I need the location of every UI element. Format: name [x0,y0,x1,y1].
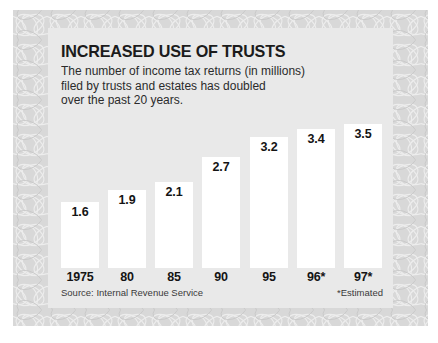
bar-column-90: 2.7 [202,157,240,268]
bar-90: 2.7 [202,157,240,268]
bar-column-85: 2.1 [155,182,193,268]
estimated-footnote: *Estimated [337,287,383,298]
x-axis-label-90: 90 [202,270,240,284]
bar-value-1975: 1.6 [61,205,99,219]
bar-1975: 1.6 [61,202,99,268]
chart-subtitle-line-2: filed by trusts and estates has doubled [61,79,378,94]
chart-title: INCREASED USE OF TRUSTS [61,42,285,62]
bar-value-96: 3.4 [297,132,335,146]
bar-value-97: 3.5 [344,127,382,141]
bar-95: 3.2 [250,137,288,268]
x-axis-label-96: 96* [297,270,335,284]
decorative-panel: INCREASED USE OF TRUSTS The number of in… [13,10,428,326]
bar-value-85: 2.1 [155,185,193,199]
chart-subtitle-line-3: over the past 20 years. [61,93,378,108]
bar-column-95: 3.2 [250,137,288,268]
chart-subtitle-line-1: The number of income tax returns (in mil… [61,64,378,79]
bar-85: 2.1 [155,182,193,268]
bar-column-80: 1.9 [108,190,146,268]
bar-96: 3.4 [297,129,335,268]
bar-value-95: 3.2 [250,140,288,154]
x-axis-labels: 1975 80 85 90 95 96* 97* [61,270,383,288]
bar-97: 3.5 [344,124,382,268]
bar-column-96: 3.4 [297,129,335,268]
bar-column-1975: 1.6 [61,202,99,268]
bar-plot-area: 1.6 1.9 2.1 2.7 [61,108,383,268]
source-note: Source: Internal Revenue Service [61,287,203,298]
chart-content-area: INCREASED USE OF TRUSTS The number of in… [48,28,393,308]
x-axis-label-85: 85 [155,270,193,284]
x-axis-label-1975: 1975 [61,270,99,284]
bar-value-80: 1.9 [108,193,146,207]
chart-subtitle: The number of income tax returns (in mil… [61,64,378,108]
bar-value-90: 2.7 [202,160,240,174]
x-axis-label-95: 95 [250,270,288,284]
bar-column-97: 3.5 [344,124,382,268]
chart-footer: Source: Internal Revenue Service *Estima… [61,287,383,301]
bar-80: 1.9 [108,190,146,268]
x-axis-label-97: 97* [344,270,382,284]
x-axis-label-80: 80 [108,270,146,284]
chart-page: INCREASED USE OF TRUSTS The number of in… [0,0,438,343]
